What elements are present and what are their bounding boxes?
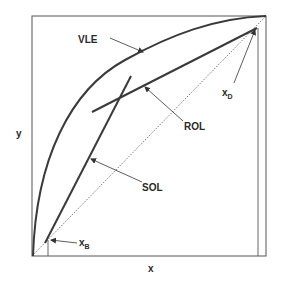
diagonal-line — [32, 16, 266, 256]
rol-label: ROL — [184, 122, 205, 132]
vle-label: VLE — [78, 35, 97, 45]
xd-label: xD — [222, 88, 233, 100]
sol-line — [45, 76, 131, 243]
xb-arrow — [51, 240, 77, 243]
y-axis-label: y — [16, 129, 22, 139]
rol-arrow — [145, 87, 183, 121]
sol-arrow — [91, 159, 142, 182]
vle-arrow — [110, 38, 143, 52]
sol-label: SOL — [142, 183, 163, 193]
xb-label: xB — [79, 238, 90, 250]
diagram-canvas — [0, 0, 281, 285]
x-axis-label: x — [148, 264, 154, 274]
